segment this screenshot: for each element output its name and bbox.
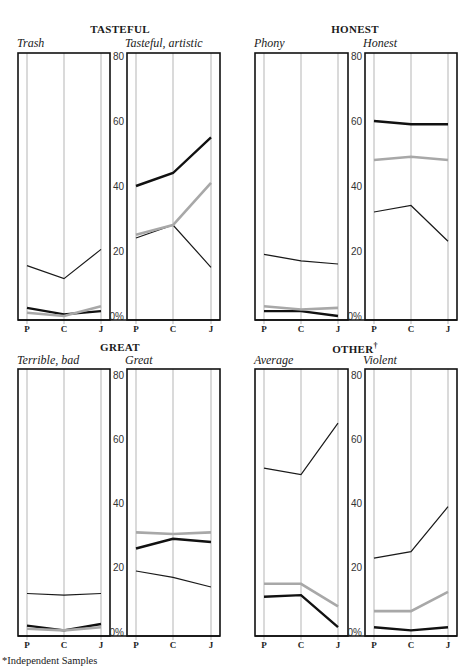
x-tick-label: P (133, 640, 139, 650)
x-tick-label: J (446, 324, 451, 334)
x-tick-label: C (170, 640, 177, 650)
x-tick-label: C (408, 640, 415, 650)
x-tick-label: C (298, 640, 305, 650)
panel-trash: PCJ (18, 53, 110, 334)
x-tick-label: C (170, 324, 177, 334)
x-tick-label: J (209, 324, 214, 334)
x-tick-label: C (408, 324, 415, 334)
y-tick-label: 60 (113, 434, 125, 445)
x-tick-label: J (209, 640, 214, 650)
y-tick-label: 80 (351, 51, 363, 62)
footnote: *Independent Samples (2, 655, 97, 666)
x-tick-label: J (99, 324, 104, 334)
y-tick-label: 40 (351, 498, 363, 509)
x-tick-label: C (61, 324, 68, 334)
panel-terrible-bad: PCJ (18, 369, 110, 650)
x-tick-label: P (24, 640, 30, 650)
panel-average: PCJ (255, 369, 348, 650)
y-tick-label: 60 (351, 116, 363, 127)
y-tick-label: 60 (113, 116, 125, 127)
y-tick-label: 20 (113, 562, 125, 573)
x-tick-label: J (446, 640, 451, 650)
panel-honest: PCJ806040200% (348, 51, 457, 335)
x-tick-label: P (133, 324, 139, 334)
y-tick-label: 20 (113, 246, 125, 257)
y-tick-label: 20 (351, 246, 363, 257)
x-tick-label: C (61, 640, 68, 650)
chart-canvas: PCJPCJ806040200%PCJPCJ806040200%PCJPCJ80… (0, 0, 469, 671)
x-tick-label: J (336, 640, 341, 650)
y-tick-label: 20 (351, 562, 363, 573)
panel-tasteful-artistic: PCJ806040200% (110, 51, 220, 335)
x-tick-label: J (99, 640, 104, 650)
y-tick-label: 80 (113, 51, 125, 62)
y-tick-label: 40 (113, 181, 125, 192)
x-tick-label: P (24, 324, 30, 334)
panel-violent: PCJ806040200% (348, 369, 457, 650)
y-tick-label: 40 (113, 498, 125, 509)
x-tick-label: P (261, 640, 267, 650)
x-tick-label: P (371, 640, 377, 650)
y-tick-label: 40 (351, 181, 363, 192)
x-tick-label: C (298, 324, 305, 334)
panel-phony: PCJ (255, 53, 348, 334)
panel-great: PCJ806040200% (110, 369, 220, 650)
x-tick-label: P (261, 324, 267, 334)
y-tick-label: 80 (113, 370, 125, 381)
x-tick-label: P (371, 324, 377, 334)
y-tick-label: 60 (351, 434, 363, 445)
x-tick-label: J (336, 324, 341, 334)
y-tick-label: 80 (351, 370, 363, 381)
